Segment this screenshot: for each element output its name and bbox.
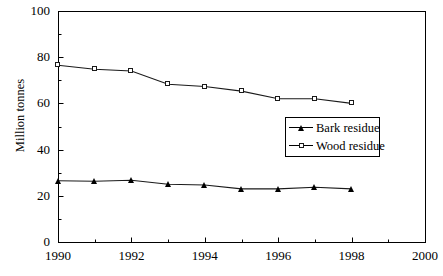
legend-marker-open-square-icon [289, 139, 313, 153]
y-tick-label: 100 [16, 4, 50, 17]
legend-item-bark-residue: Bark residue [289, 119, 380, 137]
data-point-marker [239, 88, 244, 93]
data-point-marker [165, 81, 170, 86]
x-tick-label: 1992 [103, 249, 159, 262]
x-axis-tick-labels: 199019921994199619982000 [0, 249, 438, 269]
data-point-marker [55, 178, 61, 184]
legend-label: Bark residue [313, 122, 380, 135]
data-point-marker [55, 62, 60, 67]
x-tick-label: 1994 [177, 249, 233, 262]
data-point-marker [202, 84, 207, 89]
data-point-marker [275, 96, 280, 101]
y-tick-label: 0 [16, 235, 50, 248]
y-axis-title: Million tonnes [13, 56, 28, 176]
data-point-marker [312, 96, 317, 101]
legend-label: Wood residue [313, 140, 385, 153]
data-point-marker [201, 182, 207, 188]
chart-legend: Bark residue Wood residue [285, 117, 380, 157]
x-tick-label: 1996 [250, 249, 306, 262]
legend-item-wood-residue: Wood residue [289, 137, 385, 155]
data-point-marker [349, 100, 354, 105]
data-point-marker [348, 186, 354, 192]
data-point-marker [311, 184, 317, 190]
x-tick-label: 2000 [397, 249, 443, 262]
data-point-marker [238, 186, 244, 192]
data-point-marker [128, 177, 134, 183]
data-point-marker [91, 178, 97, 184]
data-point-marker [128, 68, 133, 73]
data-point-marker [165, 181, 171, 187]
legend-marker-filled-triangle-icon [289, 121, 313, 135]
x-tick-label: 1990 [30, 249, 86, 262]
data-point-marker [92, 66, 97, 71]
data-point-marker [275, 186, 281, 192]
x-tick-label: 1998 [324, 249, 380, 262]
y-tick-label: 20 [16, 189, 50, 202]
